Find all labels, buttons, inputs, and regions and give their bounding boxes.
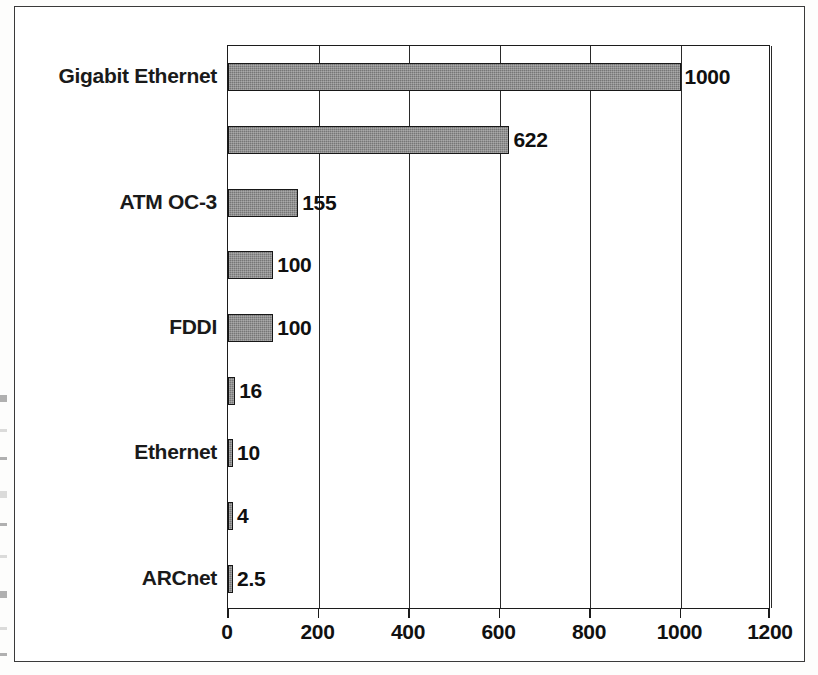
bar: [228, 189, 298, 217]
x-tick-label-0: 0: [221, 620, 232, 644]
margin-artifact-mark: [0, 395, 7, 402]
category-label-ethernet: Ethernet: [134, 438, 227, 466]
x-tick-label-1200: 1200: [747, 620, 793, 644]
bar-row: 10: [228, 439, 771, 467]
bar-value-label: 100: [273, 316, 311, 340]
bar-row: 155: [228, 189, 771, 217]
bar-row: 16: [228, 377, 771, 405]
gridline-1200: [771, 46, 772, 608]
category-label-fddi: FDDI: [169, 313, 227, 341]
bar-row: 4: [228, 502, 771, 530]
x-tick-mark-0: [227, 609, 229, 618]
plot-area: 1000622155100100161042.5: [227, 45, 770, 609]
margin-artifact-mark: [0, 627, 7, 630]
bar-value-label: 2.5: [233, 567, 265, 591]
x-tick-label-200: 200: [300, 620, 334, 644]
x-tick-mark-400: [408, 609, 410, 618]
bar: [228, 314, 273, 342]
margin-artifact-mark: [0, 491, 7, 498]
bar-value-label: 100: [273, 253, 311, 277]
x-tick-mark-800: [589, 609, 591, 618]
margin-artifact-mark: [0, 591, 7, 598]
x-tick-label-600: 600: [481, 620, 515, 644]
bar-row: 100: [228, 251, 771, 279]
bar-row: 2.5: [228, 565, 771, 593]
bar-row: 622: [228, 126, 771, 154]
scanned-figure-page: Gigabit EthernetATM OC-3FDDIEthernetARCn…: [0, 0, 818, 675]
bar-row: 100: [228, 314, 771, 342]
margin-artifact-mark: [0, 555, 7, 558]
category-label-atm-oc-3: ATM OC-3: [119, 188, 227, 216]
bar: [228, 126, 509, 154]
category-label-gigabit-ethernet: Gigabit Ethernet: [58, 62, 227, 90]
bar-value-label: 4: [233, 504, 248, 528]
figure-frame: Gigabit EthernetATM OC-3FDDIEthernetARCn…: [14, 6, 805, 662]
x-tick-label-1000: 1000: [657, 620, 703, 644]
x-tick-mark-200: [318, 609, 320, 618]
bar: [228, 63, 681, 91]
x-tick-label-400: 400: [391, 620, 425, 644]
bar-value-label: 155: [298, 191, 336, 215]
category-label-arcnet: ARCnet: [142, 564, 227, 592]
page-margin-artifact: [0, 395, 9, 660]
margin-artifact-mark: [0, 653, 7, 656]
bar: [228, 251, 273, 279]
x-tick-label-800: 800: [572, 620, 606, 644]
bar-value-label: 16: [235, 379, 262, 403]
bar-row: 1000: [228, 63, 771, 91]
bar-value-label: 10: [233, 441, 260, 465]
margin-artifact-mark: [0, 457, 7, 460]
bar-value-label: 622: [509, 128, 547, 152]
x-axis: 020040060080010001200: [227, 609, 770, 661]
margin-artifact-mark: [0, 523, 7, 526]
x-tick-mark-600: [499, 609, 501, 618]
x-tick-mark-1200: [768, 609, 770, 618]
bar: [228, 377, 235, 405]
category-axis-labels: Gigabit EthernetATM OC-3FDDIEthernetARCn…: [15, 45, 227, 609]
bar-value-label: 1000: [681, 65, 731, 89]
margin-artifact-mark: [0, 429, 7, 432]
x-tick-mark-1000: [680, 609, 682, 618]
